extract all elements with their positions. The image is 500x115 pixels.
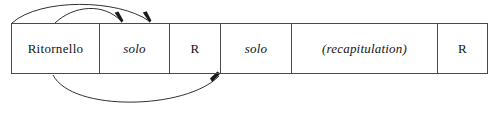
table-cell-solo-1: solo [100, 24, 170, 73]
cell-label: solo [123, 42, 145, 55]
table-cell-solo-2: solo [221, 24, 292, 73]
table-cell-ritornello-1: Ritornello [12, 24, 100, 73]
upper-arc-short [55, 8, 121, 23]
table-cell-r-1: R [170, 24, 221, 73]
form-table: Ritornello solo R solo (recapitulation) … [11, 23, 488, 74]
cell-label: (recapitulation) [322, 42, 407, 55]
cell-label: R [458, 42, 467, 55]
upper-arc-long-arrowhead [143, 11, 152, 23]
cell-label: solo [245, 42, 267, 55]
cell-label: R [191, 42, 200, 55]
table-cell-r-2: R [438, 24, 487, 73]
cell-label: Ritornello [28, 42, 84, 55]
table-cell-recapitulation: (recapitulation) [292, 24, 438, 73]
diagram-canvas: Ritornello solo R solo (recapitulation) … [0, 0, 500, 115]
upper-arc-short-arrowhead [115, 11, 124, 22]
lower-arc [53, 75, 219, 102]
upper-arc-long [12, 4, 149, 23]
